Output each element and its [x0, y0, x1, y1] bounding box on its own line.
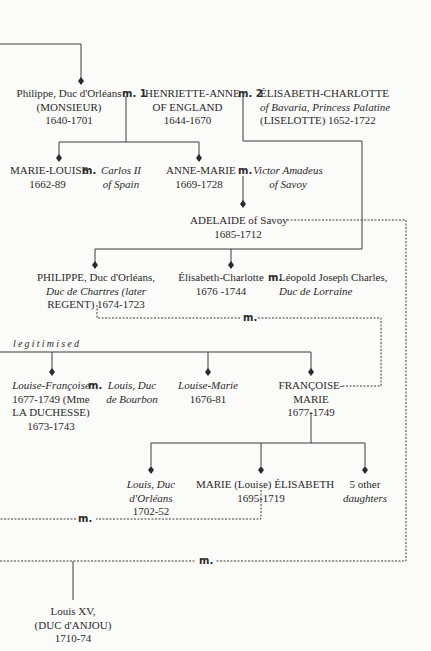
title: of Savoy: [252, 178, 324, 192]
marriage-label-1: m. 1: [122, 87, 147, 101]
name-cont: MARIE: [276, 393, 346, 407]
title: OF ENGLAND: [145, 101, 230, 115]
marriage-label: m.: [199, 554, 213, 568]
name: Léopold Joseph Charles,: [279, 271, 387, 285]
title: d'Orléans: [120, 492, 182, 506]
name: Carlos II: [101, 164, 141, 178]
count: 5 other: [335, 478, 395, 492]
dates: 1669-1728: [166, 178, 232, 192]
name: ANNE-MARIE: [166, 164, 232, 178]
title: de Bourbon: [106, 393, 158, 407]
name: Élisabeth-Charlotte: [173, 271, 269, 285]
marriage-label-2: m. 2: [238, 87, 263, 101]
name: Victor Amadeus: [252, 164, 324, 178]
person-other-daughters: 5 other daughters: [335, 478, 395, 505]
title: (DUC d'ANJOU): [33, 619, 113, 633]
person-louis-bourbon: Louis, Duc de Bourbon: [106, 379, 158, 406]
person-leopold: Léopold Joseph Charles, Duc de Lorraine: [279, 271, 387, 298]
label: daughters: [335, 492, 395, 506]
person-carlos-ii: Carlos II of Spain: [101, 164, 141, 191]
name: Louis, Duc: [106, 379, 158, 393]
person-louise-marie: Louise-Marie 1676-81: [170, 379, 246, 406]
person-louis-orleans: Louis, Duc d'Orléans 1702-52: [120, 478, 182, 519]
person-marie-louise: MARIE-LOUISE 1662-89: [10, 164, 85, 191]
dates: 1644-1670: [145, 114, 230, 128]
name: Louise-Françoise: [10, 379, 92, 393]
dates: 1702-52: [120, 505, 182, 519]
legitimised-label: legitimised: [13, 338, 81, 349]
dates: 1673-1743: [10, 420, 92, 434]
dates: 1695-1719: [196, 492, 326, 506]
dates: 1676-81: [170, 393, 246, 407]
title: Duc de Chartres (later: [36, 285, 156, 299]
person-philippe-regent: PHILIPPE, Duc d'Orléans, Duc de Chartres…: [36, 271, 156, 312]
person-victor-amadeus: Victor Amadeus of Savoy: [252, 164, 324, 191]
title: (MONSIEUR): [14, 101, 124, 115]
name: FRANÇOISE-: [276, 379, 346, 393]
dates: 1662-89: [10, 178, 85, 192]
name: HENRIETTE-ANNE: [145, 87, 230, 101]
name: Louis XV,: [33, 605, 113, 619]
person-louise-francoise: Louise-Françoise 1677-1749 (Mme LA DUCHE…: [10, 379, 92, 433]
marriage-label: m.: [238, 164, 252, 178]
person-adelaide: ADELAIDE of Savoy 1685-1712: [190, 214, 286, 241]
person-elisabeth-charlotte-lorraine: Élisabeth-Charlotte 1676 -1744: [173, 271, 269, 298]
name: PHILIPPE, Duc d'Orléans,: [36, 271, 156, 285]
dates: (LISELOTTE) 1652-1722: [260, 114, 390, 128]
person-louis-xv: Louis XV, (DUC d'ANJOU) 1710-74: [33, 605, 113, 646]
name: Louise-Marie: [170, 379, 246, 393]
dates: 1640-1701: [14, 114, 124, 128]
name: MARIE (Louise) ÉLISABETH: [196, 478, 326, 492]
dates: REGENT) 1674-1723: [36, 298, 156, 312]
dates: 1710-74: [33, 632, 113, 646]
person-philippe-monsieur: Philippe, Duc d'Orléans (MONSIEUR) 1640-…: [14, 87, 124, 128]
name: Philippe, Duc d'Orléans: [14, 87, 124, 101]
name: Louis, Duc: [120, 478, 182, 492]
name: ADELAIDE of Savoy: [190, 214, 286, 228]
dates: 1676 -1744: [173, 285, 269, 299]
dates: 1677-1749: [276, 406, 346, 420]
person-anne-marie: ANNE-MARIE 1669-1728: [166, 164, 232, 191]
title: Duc de Lorraine: [279, 285, 387, 299]
title: of Spain: [101, 178, 141, 192]
dates: 1685-1712: [190, 228, 286, 242]
person-marie-louise-elisabeth: MARIE (Louise) ÉLISABETH 1695-1719: [196, 478, 326, 505]
name: ÉLISABETH-CHARLOTTE: [260, 87, 390, 101]
dates: 1677-1749 (Mme: [10, 393, 92, 407]
marriage-label: m.: [78, 512, 92, 526]
person-henriette-anne: HENRIETTE-ANNE OF ENGLAND 1644-1670: [145, 87, 230, 128]
person-elisabeth-charlotte-bavaria: ÉLISABETH-CHARLOTTE of Bavaria, Princess…: [260, 87, 390, 128]
marriage-label: m.: [88, 379, 102, 393]
marriage-label: m.: [243, 311, 257, 325]
marriage-label: m.: [82, 164, 96, 178]
title: of Bavaria, Princess Palatine: [260, 101, 390, 115]
title: LA DUCHESSE): [10, 406, 92, 420]
person-francoise-marie: FRANÇOISE- MARIE 1677-1749: [276, 379, 346, 420]
name: MARIE-LOUISE: [10, 164, 85, 178]
